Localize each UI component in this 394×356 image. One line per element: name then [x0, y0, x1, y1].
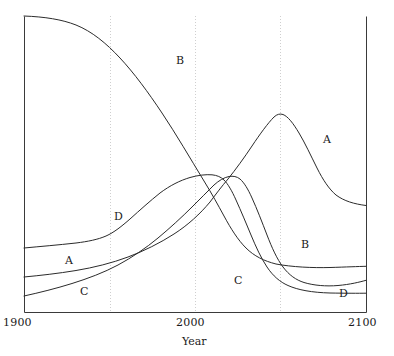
- line-chart-figure: 1900 2000 2100 Year B A D B A C C D: [0, 0, 394, 356]
- curve-c: [24, 176, 366, 296]
- x-tick-2100: 2100: [348, 317, 377, 329]
- curve-label-b-right: B: [301, 239, 309, 250]
- curve-label-c-right: C: [234, 275, 242, 286]
- chart-plot-area: [0, 0, 394, 356]
- curve-label-b-top: B: [176, 55, 184, 66]
- curve-d: [24, 175, 366, 294]
- curve-label-a-right: A: [323, 134, 331, 145]
- curve-label-c-left: C: [80, 286, 88, 297]
- x-tick-1900: 1900: [3, 317, 32, 329]
- curve-label-a-left: A: [65, 255, 73, 266]
- curve-label-d-left: D: [114, 211, 123, 222]
- curve-a: [24, 114, 366, 277]
- x-tick-2000: 2000: [176, 317, 205, 329]
- x-axis-title: Year: [182, 336, 207, 348]
- curve-label-d-right: D: [339, 288, 348, 299]
